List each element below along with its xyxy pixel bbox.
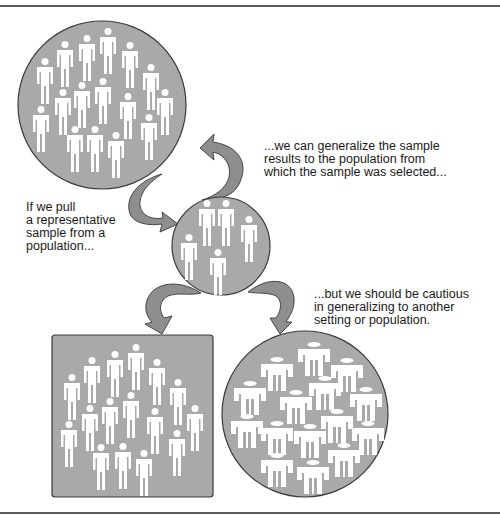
similar-population-node	[52, 335, 213, 497]
arrow-generalize-icon	[200, 134, 243, 200]
arrow-different-population-icon	[248, 281, 294, 334]
arrow-pull-sample-icon	[129, 174, 178, 232]
diagram-canvas	[0, 0, 500, 519]
caption-cautious: ...but we should be cautious in generali…	[314, 288, 469, 327]
caption-pull-sample: If we pull a representative sample from …	[26, 201, 116, 253]
sample-node	[172, 197, 270, 295]
population-node	[18, 21, 186, 189]
caption-generalize: ...we can generalize the sample results …	[264, 140, 447, 179]
different-population-node	[222, 331, 388, 497]
arrow-similar-population-icon	[145, 284, 201, 334]
